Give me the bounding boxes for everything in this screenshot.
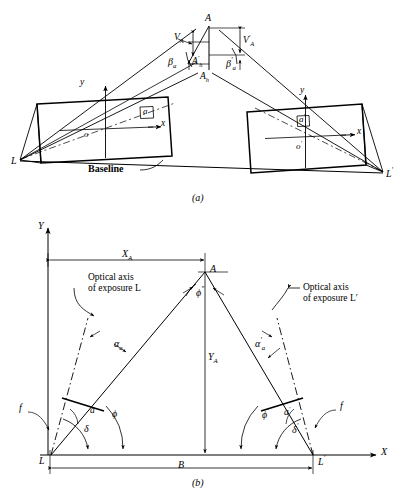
alpha-left-arrow-in [90,331,100,337]
label-object-point-a: A [205,13,211,23]
label-axis-Y: Y [38,221,44,231]
label-baseline: Baseline [88,164,124,174]
label-focal-right: f [340,401,343,411]
caption-panel-b: (b) [192,478,204,488]
ray-right-Ah [212,73,383,172]
label-a-left-plan: a [90,406,95,416]
caption-panel-a: (a) [192,193,204,203]
label-axis-y-left: y [80,78,84,88]
panel-a-drawing [20,26,383,173]
label-VA-left: VA [174,33,184,44]
ray-left-inner [21,103,175,159]
label-axis-y-right: y [300,86,304,96]
label-phi-right: ϕ′ [262,409,269,420]
label-alpha-a-right: α′a [255,338,265,352]
label-axis-X: X [381,447,387,457]
ray-L-to-A [51,272,205,455]
label-beta-a-right: β′a [226,58,236,72]
label-beta-a-left: βa [168,57,176,70]
label-alpha-a-left: αa [114,339,123,352]
a-left-arc [70,409,78,424]
label-delta-right: δ′ [292,424,298,435]
label-axis-x-right: x [357,127,361,137]
alpha-right-arrow-out [268,348,280,358]
right-photo-plane [247,104,366,173]
label-image-point-a: a [143,107,148,116]
figure-container: A VA V′A A′h Ah βa β′a L L′ o o′ a a′ x … [0,0,403,492]
focal-left-leader [28,412,49,430]
label-station-L-prime-plan: L′ [318,456,325,467]
ray-left-Ahprime [20,62,197,160]
label-VA-right: V′A [243,34,254,48]
label-object-point-A-plan: A [210,264,216,274]
label-station-L-prime: L′ [386,168,393,179]
label-focal-left: f [19,403,22,413]
label-principal-point-o: o [84,130,89,139]
label-apex-angle: ϕ″ [196,287,204,298]
label-delta-left: δ [84,424,89,434]
note-optical-axis-L: Optical axis of exposure L [88,272,141,294]
label-phi-left: ϕ [112,409,117,419]
label-station-L-plan: L [39,456,45,466]
label-Ah-prime: A′h [192,55,203,69]
optical-axis-Lprime-leader [272,288,288,310]
label-a-right-plan: a′ [284,406,290,418]
label-axis-x-left: x [161,119,165,129]
phi-right-arc [241,406,258,449]
panel-b-drawing [28,228,376,474]
label-station-L: L [11,156,17,166]
label-dim-YA: YA [208,352,218,365]
note-optical-axis-L-prime: Optical axis of exposure L′ [303,282,358,304]
right-photo-x-axis-arrow [341,135,355,136]
label-principal-point-o-prime: o′ [296,140,302,151]
label-dim-B: B [178,460,184,470]
alpha-right-arrow-in [262,331,272,337]
focal-right-leader [315,410,336,428]
label-image-point-a-prime: a′ [299,113,305,124]
label-Ah: Ah [200,72,209,83]
ray-left-A [20,29,196,160]
label-dim-XA: XA [122,249,132,262]
